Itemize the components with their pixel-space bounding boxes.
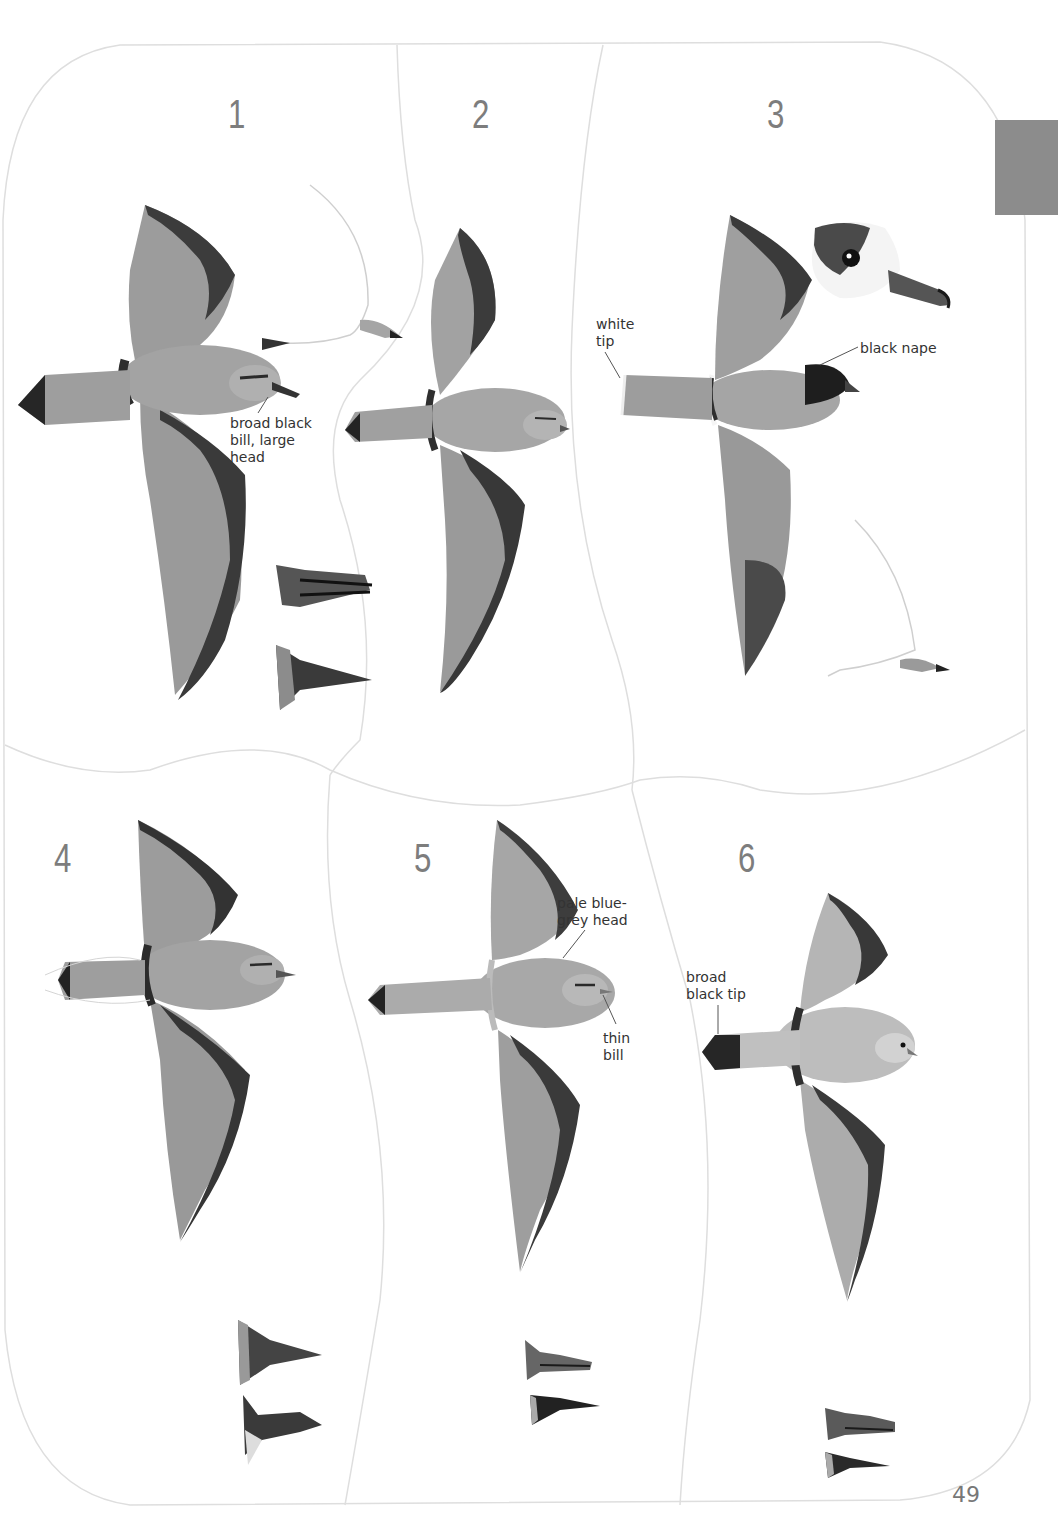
field-guide-page: 1 2 3 4 5 6 broad black bill, large head… — [0, 0, 1058, 1529]
page-number: 49 — [952, 1482, 980, 1507]
annotation-bird-5-bill: thin bill — [603, 1030, 630, 1064]
annotation-bird-3-nape: black nape — [860, 340, 937, 357]
bird-4-bills — [238, 1320, 322, 1465]
plate-number-2: 2 — [472, 92, 489, 137]
annotation-bird-3-tail: white tip — [596, 316, 634, 350]
bird-illustrations — [0, 0, 1058, 1529]
bird-4-dorsal — [45, 820, 296, 1242]
bird-3-side-view — [828, 520, 950, 676]
bird-5-bills — [525, 1340, 600, 1425]
section-thumb-tab — [995, 120, 1058, 215]
bird-1-side-view — [262, 185, 403, 350]
annotation-bird-5-head: pale blue- grey head — [557, 895, 628, 929]
plate-number-5: 5 — [414, 836, 431, 881]
bird-3-head-closeup — [812, 222, 950, 308]
plate-number-4: 4 — [54, 836, 71, 881]
bird-5-dorsal — [368, 820, 615, 1273]
plate-number-3: 3 — [767, 92, 784, 137]
annotation-bird-1-bill: broad black bill, large head — [230, 415, 312, 466]
plate-number-6: 6 — [738, 836, 755, 881]
plate-number-1: 1 — [228, 92, 245, 137]
bird-2-dorsal — [345, 228, 570, 693]
bird-6-dorsal — [702, 893, 918, 1302]
bird-1-bills — [276, 565, 372, 710]
annotation-bird-6-tail: broad black tip — [686, 969, 746, 1003]
bird-6-bills — [825, 1408, 895, 1478]
